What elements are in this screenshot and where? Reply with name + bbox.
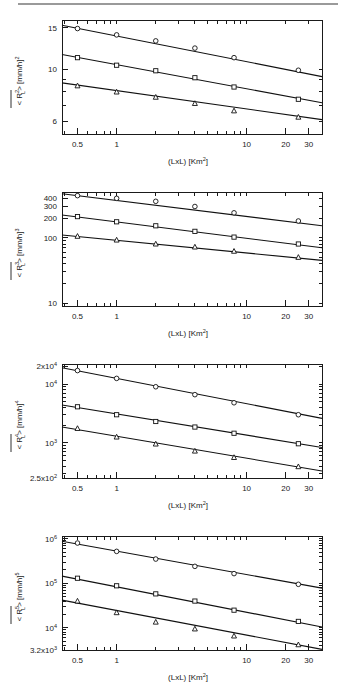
panel-1-plot: 0.5110203015106(LxL) [Km2]< R2L> [mm/h]2: [0, 6, 349, 178]
data-point-square: [154, 592, 158, 596]
x-tick-label: 0.5: [72, 312, 84, 321]
x-tick-label: 20: [281, 312, 290, 321]
data-point-circle: [193, 564, 198, 569]
fit-line-series-square: [62, 55, 322, 103]
y-tick-label: 300: [44, 202, 58, 211]
y-axis-title: < R4L> [mm/h]4: [11, 400, 26, 452]
x-tick-label: 10: [242, 312, 251, 321]
data-point-triangle: [296, 642, 301, 647]
data-point-square: [193, 425, 197, 429]
x-tick-label: 10: [242, 140, 251, 149]
y-tick-label: 2x104: [37, 361, 57, 371]
data-point-square: [75, 215, 79, 219]
chart-panel-2: 0.5110203040030020010010(LxL) [Km2]< R3L…: [0, 178, 349, 350]
y-tick-label: 106: [45, 534, 57, 544]
data-point-circle: [232, 55, 237, 60]
x-tick-label: 30: [304, 312, 313, 321]
x-axis-title: (LxL) [Km2]: [168, 156, 208, 166]
x-axis-title: (LxL) [Km2]: [168, 500, 208, 510]
y-tick-label: 104: [45, 623, 57, 633]
data-point-circle: [153, 39, 158, 44]
fit-line-series-square: [62, 215, 322, 248]
plot-frame: [62, 364, 322, 478]
data-point-triangle: [114, 237, 119, 242]
y-tick-label: 10: [48, 65, 57, 74]
data-point-triangle: [232, 633, 237, 638]
data-point-triangle: [153, 619, 158, 624]
y-tick-label: 6: [53, 117, 58, 126]
y-tick-label: 104: [45, 379, 57, 389]
data-point-circle: [114, 33, 119, 38]
x-axis-title: (LxL) [Km2]: [168, 328, 208, 338]
data-point-circle: [153, 557, 158, 562]
data-point-square: [232, 235, 236, 239]
x-tick-label: 1: [114, 312, 119, 321]
y-tick-label: 100: [44, 234, 58, 243]
data-point-circle: [296, 412, 301, 417]
data-point-triangle: [296, 255, 301, 260]
chart-panel-4: 0.511020301061051043.2x103(LxL) [Km2]< R…: [0, 522, 349, 692]
y-tick-label: 103: [45, 438, 57, 448]
plot-frame: [62, 20, 322, 134]
x-tick-label: 20: [281, 140, 290, 149]
data-point-square: [115, 220, 119, 224]
data-point-square: [75, 576, 79, 580]
x-tick-label: 0.5: [72, 484, 84, 493]
chart-panel-1: 0.5110203015106(LxL) [Km2]< R2L> [mm/h]2: [0, 6, 349, 178]
panel-4-plot: 0.511020301061051043.2x103(LxL) [Km2]< R…: [0, 522, 349, 692]
data-point-triangle: [153, 95, 158, 100]
data-point-square: [296, 97, 300, 101]
fit-line-series-triangle: [62, 600, 322, 649]
data-point-square: [154, 69, 158, 73]
fit-line-series-circle: [62, 25, 322, 76]
data-point-circle: [193, 204, 198, 209]
fit-line-series-circle: [62, 194, 322, 226]
data-point-circle: [232, 571, 237, 576]
fit-line-series-square: [62, 405, 322, 447]
x-tick-label: 30: [304, 140, 313, 149]
data-point-circle: [75, 26, 80, 31]
x-tick-label: 1: [114, 140, 119, 149]
x-tick-label: 0.5: [72, 656, 84, 665]
data-point-triangle: [153, 241, 158, 246]
data-point-circle: [153, 384, 158, 389]
data-point-square: [115, 413, 119, 417]
panel-2-plot: 0.5110203040030020010010(LxL) [Km2]< R3L…: [0, 178, 349, 350]
data-point-triangle: [75, 598, 80, 603]
data-point-circle: [296, 219, 301, 224]
y-tick-label: 2.5x102: [30, 473, 57, 483]
data-point-triangle: [192, 244, 197, 249]
svg-text:< R3L> [mm/h]3: < R3L> [mm/h]3: [14, 228, 26, 277]
data-point-circle: [153, 199, 158, 204]
data-point-circle: [232, 400, 237, 405]
data-point-triangle: [192, 626, 197, 631]
data-point-square: [115, 584, 119, 588]
data-point-circle: [75, 193, 80, 198]
fit-line-series-triangle: [62, 427, 322, 471]
data-point-circle: [296, 582, 301, 587]
data-point-circle: [75, 368, 80, 373]
x-tick-label: 20: [281, 656, 290, 665]
data-point-circle: [193, 392, 198, 397]
data-point-circle: [232, 211, 237, 216]
fit-line-series-triangle: [62, 235, 322, 260]
plot-frame: [62, 536, 322, 650]
data-point-triangle: [232, 249, 237, 254]
x-axis-title: (LxL) [Km2]: [168, 672, 208, 682]
data-point-square: [154, 419, 158, 423]
page-top-rule: [18, 3, 338, 5]
data-point-triangle: [75, 426, 80, 431]
x-tick-label: 20: [281, 484, 290, 493]
y-axis-title: < R5L> [mm/h]5: [11, 572, 26, 624]
data-point-square: [193, 76, 197, 80]
data-point-triangle: [296, 114, 301, 119]
data-point-square: [296, 242, 300, 246]
y-axis-title: < R3L> [mm/h]3: [11, 228, 26, 280]
data-point-circle: [75, 541, 80, 546]
data-point-square: [193, 229, 197, 233]
chart-panel-3: 0.511020302x1041041032.5x102(LxL) [Km2]<…: [0, 350, 349, 522]
fit-line-series-triangle: [62, 83, 322, 120]
figure-page: 0.5110203015106(LxL) [Km2]< R2L> [mm/h]2…: [0, 0, 349, 692]
x-tick-label: 0.5: [72, 140, 84, 149]
data-point-square: [296, 442, 300, 446]
